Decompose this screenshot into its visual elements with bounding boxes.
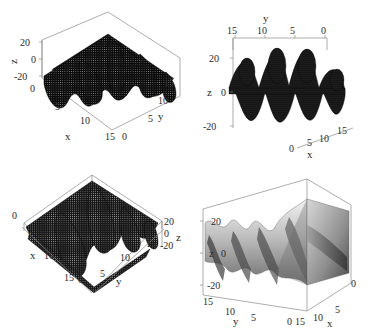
z-axis: 20 0 -20 z [7,37,42,82]
x-tick-label: 10 [313,312,323,323]
x-tick-label: 15 [295,316,305,327]
z-axis-label: z [7,59,19,64]
y-tick-label: 10 [158,95,168,106]
surface-shaded [205,199,349,285]
z-tick-label: 0 [31,54,36,65]
z-tick-label: 0 [164,228,169,239]
z-axis: 20 0 -20 z [203,53,233,132]
z-tick-label: 0 [221,248,226,259]
y-tick-label: 5 [251,312,256,323]
x-axis-label: x [307,148,313,160]
x-tick-label: 10 [44,250,54,261]
surface-plot-bottom-right: 20 0 -20 z 15 10 5 0 y 15 10 5 0 x [185,165,369,329]
y-axis-label: y [263,12,269,24]
x-tick-label: 0 [12,210,17,221]
plot-panel-bottom-left: 0 5 10 15 x 0 5 10 15 y 20 0 -20 z [0,165,185,329]
z-tick-label: 20 [211,216,221,227]
z-tick-label: 0 [221,87,226,98]
z-axis-label: z [209,247,214,259]
y-tick-label: 15 [203,296,213,307]
x-tick-label: 5 [335,304,340,315]
y-tick-label: 5 [100,268,105,279]
z-tick-label: 20 [164,216,174,227]
z-axis: 20 0 -20 z [160,216,181,251]
surface-plot-top-right: 15 10 5 0 y [185,0,369,165]
z-tick-label: -20 [207,280,220,291]
surface-plot-bottom-left: 0 5 10 15 x 0 5 10 15 y 20 0 -20 z [0,165,185,329]
x-axis: 0 5 10 15 x [289,125,353,160]
z-tick-label: 20 [20,37,30,48]
y-tick-label: 0 [321,25,326,36]
x-tick-label: 0 [289,143,294,154]
plot-panel-bottom-right: 20 0 -20 z 15 10 5 0 y 15 10 5 0 x [185,165,369,329]
x-tick-label: 0 [351,278,356,289]
y-tick-label: 15 [146,238,156,249]
x-tick-label: 15 [105,131,115,142]
y-tick-label: 0 [78,274,83,285]
y-axis-label: y [116,275,122,287]
y-axis: 15 10 5 0 y [227,12,327,38]
y-tick-label: 15 [164,77,174,88]
x-tick-label: 10 [80,115,90,126]
y-axis-label: y [158,110,164,122]
y-tick-label: 5 [290,25,295,36]
x-axis-label: x [65,130,71,142]
y-axis: 15 10 5 0 y [203,296,292,327]
z-axis-label: z [176,231,181,243]
plot-panel-top-right: 15 10 5 0 y [185,0,369,165]
surface-mesh [229,48,345,122]
x-tick-label: 5 [55,101,60,112]
z-tick-label: -20 [203,121,216,132]
x-axis-label: x [30,249,36,261]
y-tick-label: 0 [287,316,292,327]
y-tick-label: 0 [122,131,127,142]
z-tick-label: -20 [160,240,173,251]
z-tick-label: -20 [14,71,27,82]
x-tick-label: 15 [64,272,74,283]
x-tick-label: 0 [30,83,35,94]
plot-panel-top-left: 20 0 -20 z 0 5 10 15 x 0 5 10 15 y [0,0,185,165]
y-tick-label: 5 [148,113,153,124]
x-tick-label: 5 [28,230,33,241]
x-tick-label: 10 [319,133,329,144]
x-tick-label: 5 [307,137,312,148]
x-tick-label: 15 [337,125,347,136]
y-tick-label: 10 [120,252,130,263]
y-tick-label: 10 [257,25,267,36]
y-tick-label: 15 [227,25,237,36]
figure-grid: 20 0 -20 z 0 5 10 15 x 0 5 10 15 y [0,0,369,329]
surface-ripples [44,36,176,108]
z-tick-label: 20 [209,53,219,64]
surface-mesh [26,181,158,293]
x-axis-label: x [327,317,333,329]
y-axis-label: y [233,315,239,327]
z-axis-label: z [207,86,212,98]
surface-plot-top-left: 20 0 -20 z 0 5 10 15 x 0 5 10 15 y [0,0,185,165]
